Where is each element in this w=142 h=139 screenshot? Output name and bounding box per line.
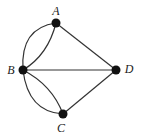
edge-c-d [63, 70, 116, 114]
label-a: A [51, 4, 60, 18]
label-d: D [124, 62, 134, 76]
label-c: C [57, 121, 66, 135]
edge-a-d [56, 23, 116, 70]
node-d [112, 66, 121, 75]
label-b: B [7, 63, 15, 77]
edge-a-b-outer [23, 23, 56, 70]
edge-b-c-outer [23, 70, 63, 114]
node-a [52, 19, 61, 28]
edges [23, 23, 116, 114]
edge-a-b-inner [23, 23, 56, 70]
graph-diagram: A B C D [0, 0, 142, 139]
node-b [19, 66, 28, 75]
node-c [59, 110, 68, 119]
